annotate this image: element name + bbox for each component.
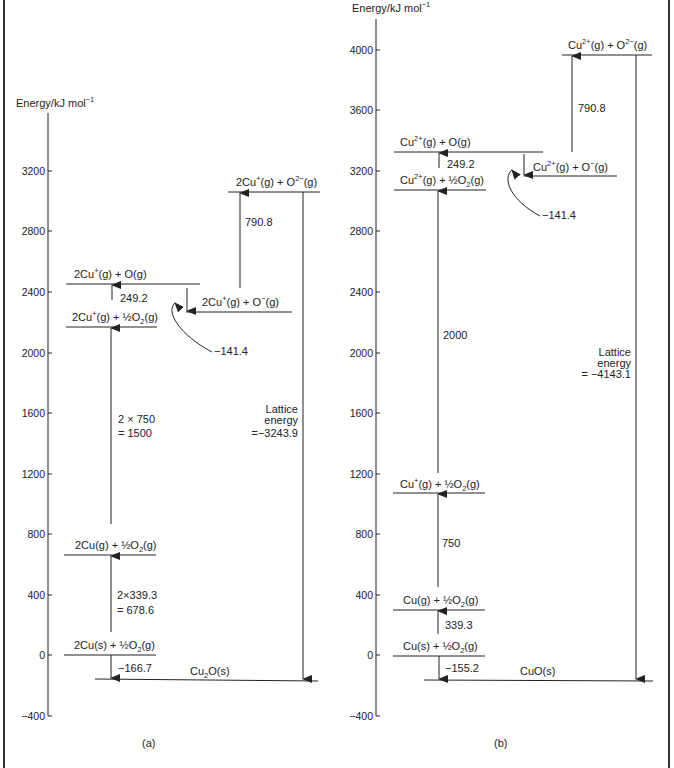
svg-text:3600: 3600 (350, 104, 374, 116)
svg-text:=−3243.9: =−3243.9 (252, 427, 299, 439)
svg-text:400: 400 (27, 589, 45, 601)
value-ionisation-a-1: 2 × 750 (118, 413, 155, 425)
svg-text:2000: 2000 (350, 347, 374, 359)
label-cu2plus-o: Cu2+(g) + O(g) (400, 134, 471, 148)
value-atomisation-o-b: 249.2 (447, 158, 475, 170)
value-ea2-a: 790.8 (245, 216, 273, 228)
curve-ea1-a (172, 303, 212, 352)
svg-text:2800: 2800 (350, 225, 374, 237)
y-ticks-b (376, 50, 380, 716)
svg-text:= −4143.1: = −4143.1 (581, 368, 631, 380)
label-2cus-halfo2: 2Cu(s) + ½O2(g) (74, 639, 155, 654)
value-ionisation-2-b: 2000 (443, 329, 467, 341)
caption-b: (b) (494, 737, 507, 749)
caption-a: (a) (142, 737, 155, 749)
axis-label-b: Energy/kJ mol−1 (352, 0, 430, 14)
svg-text:−400: −400 (349, 710, 373, 722)
svg-text:1600: 1600 (22, 407, 46, 419)
svg-text:2800: 2800 (22, 225, 46, 237)
svg-text:4000: 4000 (350, 44, 374, 56)
svg-text:1600: 1600 (350, 407, 374, 419)
value-ionisation-1-b: 750 (442, 537, 460, 549)
value-lattice-b: Lattice energy = −4143.1 (581, 346, 631, 380)
label-cu2o-solid: Cu2O(s) (190, 665, 230, 680)
svg-text:400: 400 (355, 589, 373, 601)
svg-text:800: 800 (355, 528, 373, 540)
value-ionisation-a-2: = 1500 (118, 427, 152, 439)
label-cu2plus-halfo2: Cu2+(g) + ½O2(g) (400, 172, 484, 189)
svg-text:0: 0 (39, 649, 45, 661)
axis-label-a: Energy/kJ mol−1 (16, 95, 94, 109)
value-atomisation-o-a: 249.2 (120, 292, 148, 304)
value-ea1-b: −141.4 (542, 209, 576, 221)
svg-text:2400: 2400 (22, 286, 46, 298)
svg-text:energy: energy (264, 414, 298, 426)
svg-text:0: 0 (367, 649, 373, 661)
value-formation-b: −155.2 (445, 662, 479, 674)
label-2cuplus-o: 2Cu+(g) + O(g) (74, 266, 147, 280)
svg-text:2400: 2400 (350, 286, 374, 298)
value-atomisation-cu-a-2: = 678.6 (117, 604, 154, 616)
level-cuo-solid (424, 680, 653, 681)
panel-a: Energy/kJ mol−1 3200 2800 2400 2000 1600… (16, 95, 320, 749)
label-2cuplus-ominus: 2Cu+(g) + O−(g) (202, 294, 279, 308)
panel-b: Energy/kJ mol−1 4000 3600 3200 2800 2400… (349, 0, 653, 749)
value-ea1-a: −141.4 (214, 345, 248, 357)
label-cug-halfo2-b: Cu(g) + ½O2(g) (403, 594, 478, 609)
svg-text:1200: 1200 (350, 468, 374, 480)
svg-text:1200: 1200 (22, 468, 46, 480)
label-cu2plus-ominus: Cu2+(g) + O−(g) (533, 159, 608, 173)
y-tick-labels-b: 4000 3600 3200 2800 2400 2000 1600 1200 … (349, 44, 373, 722)
svg-text:3200: 3200 (350, 165, 374, 177)
label-2cug-halfo2: 2Cu(g) + ½O2(g) (75, 539, 157, 554)
value-formation-a: −166.7 (118, 662, 152, 674)
label-cus-halfo2-b: Cu(s) + ½O2(g) (403, 640, 478, 655)
value-atomisation-cu-a-1: 2×339.3 (117, 589, 157, 601)
label-2cuplus-o2minus: 2Cu+(g) + O2−(g) (236, 174, 317, 188)
value-ea2-b: 790.8 (578, 102, 606, 114)
curve-ea1-b (508, 170, 540, 216)
svg-text:800: 800 (27, 528, 45, 540)
value-atomisation-cu-b: 339.3 (445, 619, 473, 631)
svg-text:3200: 3200 (22, 165, 46, 177)
label-cu2plus-o2minus: Cu2+(g) + O2−(g) (568, 37, 647, 51)
born-haber-diagrams: Energy/kJ mol−1 3200 2800 2400 2000 1600… (0, 0, 674, 768)
label-2cuplus-halfo2: 2Cu+(g) + ½O2(g) (72, 309, 158, 326)
svg-text:2000: 2000 (22, 347, 46, 359)
label-cuplus-halfo2: Cu+(g) + ½O2(g) (400, 476, 480, 493)
svg-text:−400: −400 (21, 710, 45, 722)
value-lattice-a: Lattice energy =−3243.9 (252, 403, 299, 439)
y-tick-labels-a: 3200 2800 2400 2000 1600 1200 800 400 0 … (21, 165, 45, 722)
y-ticks-a (48, 171, 52, 716)
label-cuo-solid: CuO(s) (520, 665, 555, 677)
